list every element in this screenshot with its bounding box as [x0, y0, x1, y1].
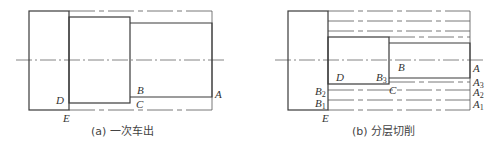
diagram-b [275, 11, 484, 110]
point-label-a-b: A [473, 63, 480, 74]
point-label-b-a: B [137, 85, 144, 96]
turning-diagram-canvas [0, 0, 495, 149]
point-label-b-b: B [398, 62, 405, 73]
point-label-a-a: A [215, 89, 222, 100]
point-label-c-b: C [389, 85, 396, 96]
point-label-b3: B3 [376, 72, 387, 85]
point-label-d-a: D [56, 95, 64, 106]
point-label-a1: A1 [473, 99, 484, 112]
point-label-d-b: D [336, 72, 344, 83]
caption-a: (a) 一次车出 [91, 126, 154, 137]
point-label-c-a: C [136, 99, 143, 110]
point-label-e-b: E [322, 113, 329, 124]
point-label-e-a: E [63, 113, 70, 124]
diagram-a [16, 11, 224, 110]
caption-b: (b) 分层切削 [352, 126, 415, 137]
point-label-b1: B1 [315, 98, 326, 111]
